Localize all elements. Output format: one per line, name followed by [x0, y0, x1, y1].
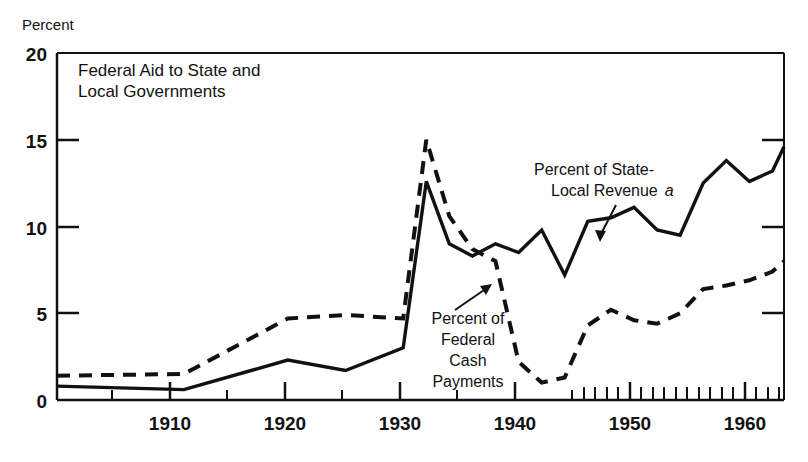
annotation-state-local-revenue: Percent of State- Local Revenuea [534, 161, 674, 242]
annotation-state-local-line1: Percent of State- [534, 161, 654, 178]
annotation-federal-cash-line3: Cash [449, 352, 486, 369]
plot-title-line1: Federal Aid to State and [78, 61, 260, 80]
annotation-federal-cash-line4: Payments [432, 373, 503, 390]
annotation-federal-cash-line2: Federal [441, 331, 495, 348]
y-tick-label-15: 15 [26, 131, 48, 152]
series-federal-cash-payments-line [57, 140, 784, 383]
annotation-state-local-arrow-head [595, 230, 606, 242]
x-tick-label-1920: 1920 [264, 413, 306, 434]
annotation-federal-cash-arrow-head [480, 284, 492, 295]
y-axis-ticks-right [762, 140, 784, 313]
x-tick-label-1930: 1930 [379, 413, 421, 434]
x-tick-label-1910: 1910 [149, 413, 191, 434]
federal-aid-line-chart: Percent 20 15 10 5 0 [0, 0, 808, 462]
plot-title-line2: Local Governments [78, 82, 225, 101]
y-tick-label-5: 5 [36, 304, 47, 325]
y-tick-label-0: 0 [36, 391, 47, 412]
annotation-state-local-line2: Local Revenuea [551, 182, 674, 199]
y-axis-ticks [57, 140, 79, 313]
y-tick-label-20: 20 [26, 44, 47, 65]
x-tick-label-1960: 1960 [724, 413, 766, 434]
y-tick-label-10: 10 [26, 218, 47, 239]
x-tick-label-1950: 1950 [609, 413, 651, 434]
y-axis-title: Percent [22, 16, 75, 33]
annotation-federal-cash-line1: Percent of [432, 310, 505, 327]
chart-figure: Percent 20 15 10 5 0 [0, 0, 808, 462]
x-tick-label-1940: 1940 [494, 413, 536, 434]
annotation-federal-cash-arrow-shaft [455, 288, 487, 310]
annotation-federal-cash-payments: Percent of Federal Cash Payments [432, 284, 505, 390]
